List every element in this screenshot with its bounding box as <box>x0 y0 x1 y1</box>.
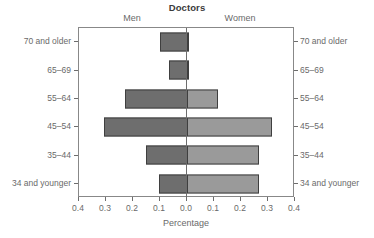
x-tick <box>78 197 79 201</box>
x-tick-label: 0.3 <box>252 203 282 213</box>
y-tick-right <box>294 126 298 127</box>
x-tick-label: 0.1 <box>144 203 174 213</box>
y-axis-label-left: 34 and younger <box>12 179 71 188</box>
x-tick <box>159 197 160 201</box>
y-axis-label-left: 65–69 <box>47 66 71 75</box>
y-tick-right <box>294 155 298 156</box>
x-tick-label: 0.0 <box>171 203 201 213</box>
y-tick-right <box>294 70 298 71</box>
y-tick-right <box>294 41 298 42</box>
x-tick-label: 0.2 <box>117 203 147 213</box>
group-label-men: Men <box>92 13 172 23</box>
x-tick <box>213 197 214 201</box>
bar-women <box>187 118 272 137</box>
y-axis-label-left: 45–54 <box>47 122 71 131</box>
bar-men <box>160 33 187 52</box>
y-axis-label-right: 70 and older <box>300 37 347 46</box>
x-axis-title: Percentage <box>78 218 294 228</box>
x-tick <box>105 197 106 201</box>
x-tick <box>294 197 295 201</box>
bar-women <box>187 61 189 80</box>
y-axis-label-left: 55–64 <box>47 94 71 103</box>
bar-women <box>187 146 259 165</box>
plot-area <box>78 27 294 197</box>
x-tick <box>132 197 133 201</box>
bar-row <box>79 141 295 169</box>
y-axis-label-right: 45–54 <box>300 122 324 131</box>
y-tick-left <box>74 98 78 99</box>
y-tick-left <box>74 183 78 184</box>
x-tick <box>240 197 241 201</box>
y-tick-right <box>294 98 298 99</box>
x-tick-label: 0.2 <box>225 203 255 213</box>
y-tick-left <box>74 126 78 127</box>
bar-men <box>146 146 187 165</box>
bar-men <box>169 61 187 80</box>
bar-row <box>79 170 295 198</box>
x-tick-label: 0.4 <box>279 203 309 213</box>
bar-row <box>79 85 295 113</box>
chart-title: Doctors <box>0 2 374 13</box>
bar-women <box>187 89 218 108</box>
bar-men <box>104 118 187 137</box>
bar-row <box>79 113 295 141</box>
group-label-women: Women <box>200 13 280 23</box>
zero-axis-line <box>186 28 187 198</box>
y-tick-left <box>74 41 78 42</box>
y-tick-left <box>74 155 78 156</box>
bar-row <box>79 28 295 56</box>
population-pyramid-chart: Doctors Men Women 70 and older70 and old… <box>0 0 374 238</box>
x-tick-label: 0.3 <box>90 203 120 213</box>
bar-men <box>125 89 187 108</box>
bar-men <box>159 174 187 193</box>
y-axis-label-right: 34 and younger <box>300 179 359 188</box>
bar-women <box>187 174 259 193</box>
x-tick-label: 0.1 <box>198 203 228 213</box>
bar-women <box>187 33 189 52</box>
y-tick-left <box>74 70 78 71</box>
x-tick <box>267 197 268 201</box>
y-axis-label-left: 35–44 <box>47 151 71 160</box>
y-tick-right <box>294 183 298 184</box>
y-axis-label-right: 55–64 <box>300 94 324 103</box>
y-axis-label-left: 70 and older <box>24 37 71 46</box>
y-axis-label-right: 35–44 <box>300 151 324 160</box>
bar-row <box>79 56 295 84</box>
x-tick-label: 0.4 <box>63 203 93 213</box>
y-axis-label-right: 65–69 <box>300 66 324 75</box>
